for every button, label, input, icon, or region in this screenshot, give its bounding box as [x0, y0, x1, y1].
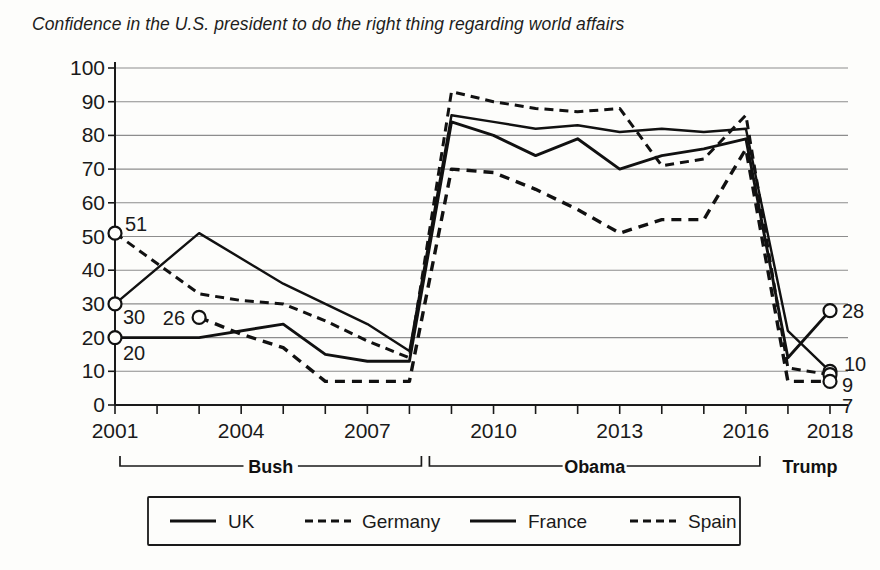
y-tick-label: 10 [82, 359, 105, 382]
label-end-germany: 9 [842, 374, 853, 396]
x-tick-label: 2004 [218, 419, 265, 442]
era-bracket-obama: Obama [429, 456, 759, 477]
end-marker-france [824, 304, 837, 317]
label-start-uk: 30 [123, 306, 145, 328]
era-brackets: BushObamaTrump [120, 456, 837, 477]
legend-label-spain[interactable]: Spain [688, 511, 737, 532]
y-tick-label: 0 [93, 393, 105, 416]
series-line-germany [115, 92, 830, 375]
label-start-spain: 26 [163, 307, 185, 329]
x-tick-label: 2010 [470, 419, 517, 442]
y-tick-label: 70 [82, 157, 105, 180]
label-end-uk: 10 [844, 353, 866, 375]
label-start-france: 20 [123, 342, 145, 364]
x-tick-label: 2018 [807, 419, 854, 442]
start-marker-spain [193, 311, 206, 324]
era-label-obama: Obama [564, 457, 626, 477]
x-tick-label: 2001 [92, 419, 139, 442]
endpoint-markers [109, 227, 837, 388]
point-value-labels: 51302026281097 [123, 213, 866, 417]
x-axis-labels: 2001200420072010201320162018 [92, 419, 854, 442]
label-start-germany: 51 [125, 213, 147, 235]
era-label-bush: Bush [248, 457, 293, 477]
start-marker-uk [109, 297, 122, 310]
y-tick-label: 60 [82, 191, 105, 214]
y-tick-label: 30 [82, 292, 105, 315]
series-line-spain [199, 149, 830, 382]
legend-label-uk[interactable]: UK [228, 511, 255, 532]
y-tick-label: 50 [82, 225, 105, 248]
y-tick-label: 80 [82, 123, 105, 146]
gridlines-group [115, 68, 848, 371]
y-tick-label: 90 [82, 90, 105, 113]
chart-svg: 0102030405060708090100 20012004200720102… [0, 0, 880, 570]
legend-label-france[interactable]: France [528, 511, 587, 532]
legend-group: UKGermanyFranceSpain [170, 511, 737, 532]
y-tick-label: 100 [70, 56, 105, 79]
era-label-trump: Trump [782, 457, 837, 477]
start-marker-france [109, 331, 122, 344]
label-end-spain: 7 [842, 395, 853, 417]
start-marker-germany [109, 227, 122, 240]
end-marker-spain [824, 375, 837, 388]
label-end-france: 28 [842, 300, 864, 322]
x-tick-label: 2013 [596, 419, 643, 442]
chart-container: Confidence in the U.S. president to do t… [0, 0, 880, 570]
era-bracket-bush: Bush [120, 456, 421, 477]
y-tick-label: 20 [82, 326, 105, 349]
x-tick-label: 2016 [723, 419, 770, 442]
y-tick-label: 40 [82, 258, 105, 281]
legend-label-germany[interactable]: Germany [362, 511, 441, 532]
x-tickmarks [115, 405, 830, 414]
x-tick-label: 2007 [344, 419, 391, 442]
